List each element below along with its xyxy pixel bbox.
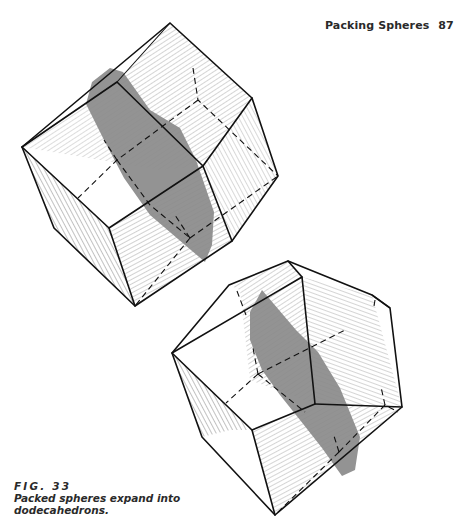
caption-line-2: dodecahedrons. — [14, 504, 180, 516]
page-number: 87 — [438, 19, 454, 32]
bottom-hidden-edge — [374, 300, 375, 306]
figure-label: FIG. 33 — [14, 480, 180, 492]
figure-caption: FIG. 33 Packed spheres expand into dodec… — [14, 480, 180, 516]
top-dodecahedron — [22, 23, 278, 306]
bottom-dodecahedron — [172, 261, 402, 515]
caption-line-1: Packed spheres expand into — [14, 492, 180, 504]
